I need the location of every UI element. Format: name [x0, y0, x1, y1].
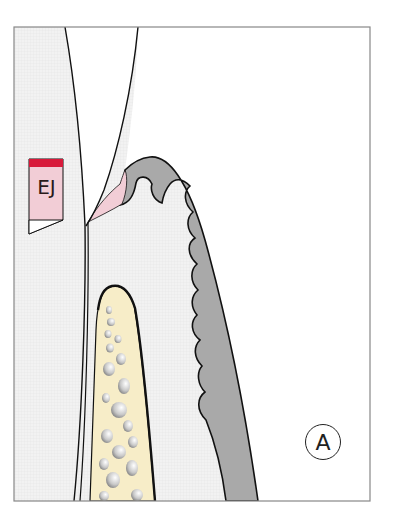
ej-label: EJ	[30, 172, 63, 202]
epithelial-band	[29, 159, 63, 167]
panel-label: A	[315, 430, 330, 455]
panel-label-circle: A	[305, 424, 341, 460]
